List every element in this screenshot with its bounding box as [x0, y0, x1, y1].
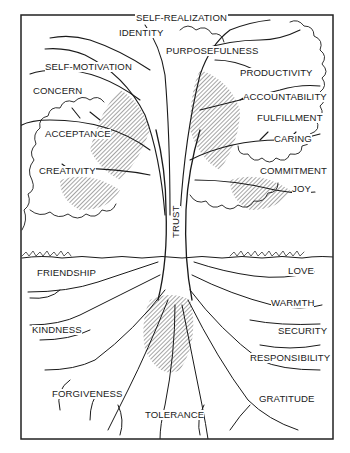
- label-fulfillment: FULFILLMENT: [257, 113, 323, 123]
- label-responsibility: RESPONSIBILITY: [250, 353, 330, 363]
- label-gratitude: GRATITUDE: [259, 394, 315, 404]
- ground-line: [22, 257, 342, 259]
- label-forgiveness: FORGIVENESS: [52, 389, 122, 399]
- label-commitment: COMMITMENT: [260, 166, 327, 176]
- label-productivity: PRODUCTIVITY: [240, 68, 313, 78]
- label-trust: TRUST: [171, 206, 181, 238]
- label-acceptance: ACCEPTANCE: [45, 129, 111, 139]
- label-warmth: WARMTH: [271, 298, 314, 308]
- label-self-motivation: SELF-MOTIVATION: [45, 62, 132, 72]
- label-purposefulness: PURPOSEFULNESS: [166, 46, 259, 56]
- label-friendship: FRIENDSHIP: [37, 268, 96, 278]
- label-creativity: CREATIVITY: [39, 166, 96, 176]
- label-kindness: KINDNESS: [32, 325, 82, 335]
- label-security: SECURITY: [278, 326, 327, 336]
- label-joy: JOY: [292, 184, 311, 194]
- label-love: LOVE: [288, 266, 314, 276]
- label-accountability: ACCOUNTABILITY: [243, 92, 327, 102]
- label-tolerance: TOLERANCE: [145, 410, 204, 420]
- label-caring: CARING: [274, 134, 312, 144]
- label-identity: IDENTITY: [119, 28, 164, 38]
- label-concern: CONCERN: [33, 86, 82, 96]
- label-self-realization: SELF-REALIZATION: [135, 13, 228, 23]
